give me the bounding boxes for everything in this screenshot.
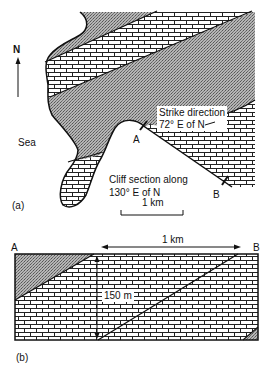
section-length-label: 1 km [162,234,184,245]
geology-diagram: Strike direction 72° E of N N Sea A B Cl… [0,0,273,372]
panel-b-label: (b) [16,352,28,363]
map-point-a: A [133,134,140,145]
strike-angle-label: 72° E of N [159,119,205,130]
section-point-b: B [253,242,260,253]
map-point-b: B [213,189,220,200]
length-arrow-icon [101,245,241,250]
section-thickness-label: 150 m [104,290,132,301]
north-label: N [13,44,20,55]
scale-bar [121,210,183,215]
strike-direction-label: Strike direction [159,107,225,118]
cliff-section-label: Cliff section along [109,174,188,185]
sea-label: Sea [18,137,36,148]
north-arrow-icon [16,57,21,97]
cross-section [15,254,258,340]
panel-a-label: (a) [12,200,24,211]
scale-label: 1 km [142,197,164,208]
section-point-a: A [11,242,18,253]
